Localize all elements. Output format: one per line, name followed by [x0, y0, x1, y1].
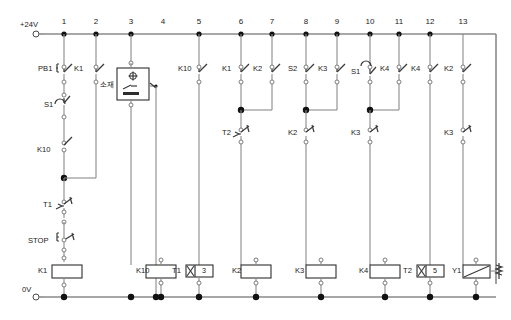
timer-value-t2: 5 — [433, 266, 437, 275]
branch-3: 소재 K10 — [100, 34, 176, 300]
contact-label-k2-branch13: K2 — [444, 64, 453, 73]
contact-label-t1-nc: T1 — [43, 200, 52, 209]
contact-k3-nc[interactable] — [368, 110, 378, 265]
contact-k4-seal-in[interactable] — [397, 64, 407, 110]
branch-12: K4 T2 5 — [403, 34, 444, 300]
ladder-diagram-canvas: +24V 0V 1 2 3 4 5 6 7 8 9 10 11 12 13 — [0, 0, 511, 320]
top-power-rail — [33, 31, 496, 284]
coil-k2[interactable] — [241, 258, 271, 297]
timer-label-t1: T1 — [172, 266, 181, 275]
contact-t1-nc[interactable] — [56, 178, 72, 224]
branch-13: K2 K3 Y1 — [444, 34, 502, 300]
contact-label-k4-seal-in: K4 — [380, 64, 389, 73]
contact-label-k10-branch1: K10 — [37, 145, 51, 154]
bottom-rail-junctions — [153, 294, 159, 300]
branch-8-9: S2 K3 K2 — [288, 34, 345, 300]
rail-number-9: 9 — [335, 17, 340, 26]
supply-label-positive: +24V — [20, 20, 39, 29]
supply-terminal-positive — [33, 31, 39, 37]
rail-number-2: 2 — [94, 17, 99, 26]
contact-k1-branch6[interactable] — [239, 64, 249, 110]
contact-label-k10-branch5: K10 — [178, 64, 192, 73]
contact-k4-branch12[interactable] — [428, 64, 438, 265]
sensor-box-material[interactable] — [117, 63, 149, 107]
contact-label-k3-nc: K3 — [351, 128, 360, 137]
rail-number-8: 8 — [304, 17, 309, 26]
contact-s2[interactable] — [304, 64, 314, 110]
contact-label-k2-nc: K2 — [288, 128, 297, 137]
sensor-label-material: 소재 — [100, 80, 114, 89]
contact-label-stop: STOP — [28, 236, 49, 245]
contact-k10-branch5[interactable] — [197, 64, 207, 265]
timer-t1[interactable] — [186, 265, 213, 297]
branch-5: K10 T1 3 — [172, 34, 213, 300]
contact-stop-nc[interactable] — [57, 222, 74, 262]
contact-k3-seal-in[interactable] — [335, 64, 345, 110]
contact-k2-branch13[interactable] — [461, 64, 471, 130]
branch-2: K1 — [74, 34, 104, 178]
timer-label-t2: T2 — [403, 266, 412, 275]
rail-number-12: 12 — [426, 17, 435, 26]
rail-number-5: 5 — [197, 17, 202, 26]
contact-label-k2-seal-in: K2 — [253, 64, 262, 73]
rail-number-labels: 1 2 3 4 5 6 7 8 9 10 11 12 13 — [62, 17, 468, 26]
rail-number-4: 4 — [161, 17, 166, 26]
coil-label-k1: K1 — [38, 266, 47, 275]
contact-k2-seal-in[interactable] — [270, 64, 280, 110]
coil-label-k10: K10 — [136, 266, 150, 275]
timer-value-t1: 3 — [202, 266, 206, 275]
rail-number-11: 11 — [395, 17, 404, 26]
contact-label-k1-branch6: K1 — [222, 64, 231, 73]
rail-number-13: 13 — [459, 17, 468, 26]
contact-label-k1-seal-in: K1 — [74, 64, 83, 73]
coil-k1[interactable] — [52, 265, 82, 297]
contact-k2-nc[interactable] — [304, 110, 314, 265]
bottom-power-rail — [33, 294, 496, 300]
contact-label-k4-branch12: K4 — [411, 64, 420, 73]
rail-number-1: 1 — [62, 17, 67, 26]
contact-k10-branch1[interactable] — [62, 119, 72, 178]
contact-label-t2-nc: T2 — [222, 128, 231, 137]
coil-label-k2: K2 — [232, 266, 241, 275]
contact-k3-nc-branch13[interactable] — [461, 125, 471, 265]
solenoid-label-y1: Y1 — [452, 266, 461, 275]
branch-1: PB1 S1 K10 — [28, 34, 96, 300]
contact-label-pb1: PB1 — [38, 64, 52, 73]
contact-label-s1-branch10: S1 — [351, 67, 360, 76]
supply-label-ground: 0V — [22, 285, 32, 294]
rail-number-6: 6 — [239, 17, 244, 26]
coil-k4[interactable] — [370, 258, 400, 297]
branch-6-7: K1 K2 T — [222, 34, 280, 300]
contact-label-s1-branch1: S1 — [44, 100, 53, 109]
contact-label-s2: S2 — [288, 64, 297, 73]
contact-label-k3-seal-in: K3 — [318, 64, 327, 73]
timer-t2[interactable] — [417, 265, 444, 297]
coil-k3[interactable] — [306, 258, 336, 297]
coil-label-k3: K3 — [295, 266, 304, 275]
branch-10-11: S1 K4 K3 — [351, 34, 407, 300]
coil-label-k4: K4 — [359, 266, 368, 275]
rail-number-10: 10 — [366, 17, 375, 26]
rail-number-7: 7 — [270, 17, 275, 26]
contact-t2-nc[interactable] — [233, 110, 249, 265]
contact-s1-branch1[interactable] — [55, 84, 70, 119]
coil-k10[interactable] — [146, 258, 176, 297]
ladder-diagram-svg: +24V 0V 1 2 3 4 5 6 7 8 9 10 11 12 13 — [0, 0, 511, 320]
supply-terminal-ground — [33, 294, 39, 300]
rail-number-3: 3 — [129, 17, 134, 26]
contact-label-k3-nc-branch13: K3 — [444, 128, 453, 137]
